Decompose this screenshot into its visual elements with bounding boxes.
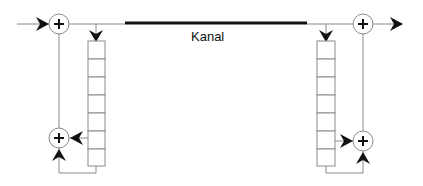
adder-top-right — [353, 14, 373, 34]
channel-label: Kanal — [191, 29, 224, 44]
adder-top-left — [49, 14, 69, 34]
adder-bottom-left — [49, 128, 69, 148]
register-left — [88, 41, 105, 166]
scrambler-channel-diagram: Kanal — [0, 0, 423, 186]
register-right — [317, 41, 335, 166]
adder-bottom-right — [353, 131, 373, 151]
